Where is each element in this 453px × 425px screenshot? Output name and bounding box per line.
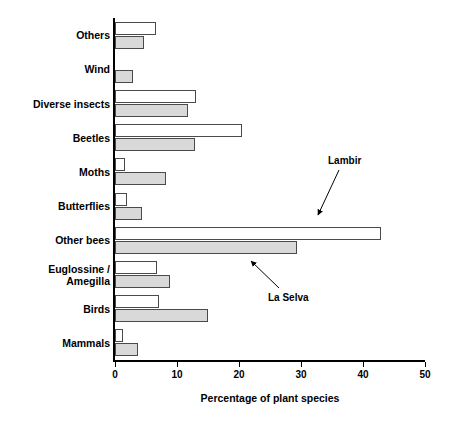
category-label-diverse-insects: Diverse insects	[5, 98, 110, 110]
category-label-birds: Birds	[5, 303, 110, 315]
x-tick-10	[177, 362, 178, 367]
x-axis-title: Percentage of plant species	[115, 392, 425, 404]
bar-lambir-diverse-insects	[115, 90, 196, 103]
bar-lambir-mammals	[115, 329, 123, 342]
category-label-mammals: Mammals	[5, 337, 110, 349]
x-tick-label-50: 50	[419, 369, 430, 380]
x-tick-20	[239, 362, 240, 367]
x-tick-50	[425, 362, 426, 367]
bar-la-selva-other-bees	[115, 241, 297, 254]
bar-lambir-beetles	[115, 124, 242, 137]
category-label-moths: Moths	[5, 166, 110, 178]
category-label-others: Others	[5, 29, 110, 41]
x-tick-40	[363, 362, 364, 367]
category-label-butterflies: Butterflies	[5, 200, 110, 212]
category-axis-labels: OthersWindDiverse insectsBeetlesMothsBut…	[0, 0, 110, 425]
bar-la-selva-moths	[115, 172, 166, 185]
annotation-label-lambir: Lambir	[328, 155, 361, 166]
category-label-beetles: Beetles	[5, 132, 110, 144]
x-tick-label-20: 20	[233, 369, 244, 380]
bar-la-selva-wind	[115, 70, 133, 83]
bar-lambir-moths	[115, 158, 125, 171]
category-label-other-bees: Other bees	[5, 234, 110, 246]
bar-lambir-butterflies	[115, 193, 127, 206]
bar-lambir-other-bees	[115, 227, 381, 240]
bar-la-selva-butterflies	[115, 207, 142, 220]
bar-lambir-others	[115, 22, 156, 35]
bar-la-selva-diverse-insects	[115, 104, 188, 117]
category-label-wind: Wind	[5, 63, 110, 75]
bar-chart: OthersWindDiverse insectsBeetlesMothsBut…	[0, 0, 453, 425]
x-tick-label-10: 10	[171, 369, 182, 380]
bar-lambir-euglossine-amegilla	[115, 261, 157, 274]
x-tick-0	[115, 362, 116, 367]
annotation-label-la-selva: La Selva	[268, 292, 309, 303]
bar-la-selva-beetles	[115, 138, 195, 151]
x-tick-30	[301, 362, 302, 367]
bar-la-selva-mammals	[115, 343, 138, 356]
x-tick-label-30: 30	[295, 369, 306, 380]
x-tick-label-0: 0	[112, 369, 118, 380]
bar-la-selva-others	[115, 36, 144, 49]
bar-lambir-birds	[115, 295, 159, 308]
x-axis-line	[113, 360, 425, 362]
bar-la-selva-birds	[115, 309, 208, 322]
x-tick-label-40: 40	[357, 369, 368, 380]
plot-area: 01020304050	[115, 18, 425, 360]
category-label-euglossine-amegilla: Euglossine / Amegilla	[5, 263, 110, 287]
bar-la-selva-euglossine-amegilla	[115, 275, 170, 288]
